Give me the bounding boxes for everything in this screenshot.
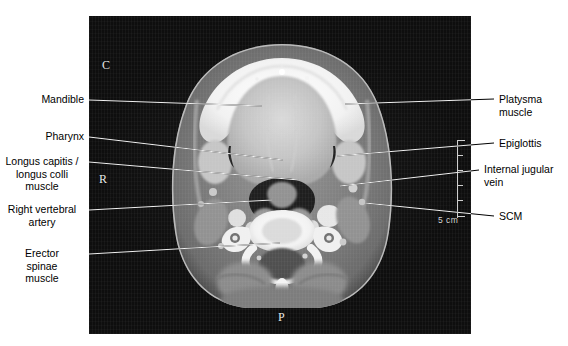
ruler-tick: [458, 216, 465, 217]
ruler-tick: [458, 140, 465, 141]
label-platysma-muscle: Platysma muscle: [499, 93, 568, 118]
label-mandible: Mandible: [0, 93, 84, 106]
cranial-anterior-marker: C: [102, 58, 111, 73]
ruler-tick: [458, 170, 463, 171]
ruler-tick: [458, 200, 463, 201]
scale-bar-ruler: [457, 140, 465, 218]
label-epiglottis: Epiglottis: [499, 137, 568, 150]
ruler-tick: [458, 185, 463, 186]
label-right-vertebral-artery: Right vertebral artery: [0, 203, 84, 228]
label-erector-spinae-muscle: Erector spinae muscle: [0, 247, 84, 285]
posterior-marker: P: [278, 310, 285, 325]
ct-image: [157, 42, 407, 310]
ct-figure: C R P 5 cm Mandible Pharynx Longus capit…: [0, 0, 568, 346]
right-marker: R: [99, 172, 108, 187]
scale-bar-label: 5 cm: [438, 215, 458, 225]
label-scm: SCM: [499, 210, 568, 223]
ct-scan-panel: [89, 16, 471, 334]
ruler-tick: [458, 155, 463, 156]
label-internal-jugular-vein: Internal jugular vein: [484, 163, 568, 188]
label-pharynx: Pharynx: [0, 130, 84, 143]
label-longus-capitis-colli-muscle: Longus capitis / longus colli muscle: [0, 155, 84, 193]
